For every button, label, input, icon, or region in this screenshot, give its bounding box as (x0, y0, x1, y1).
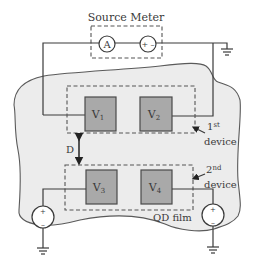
pad-v2: V2 (140, 97, 172, 131)
pad-v2-subscript: 2 (156, 114, 160, 122)
pad-v1: V1 (85, 97, 116, 131)
svg-text:–: – (211, 218, 215, 227)
first-device-word: device (204, 136, 237, 147)
svg-text:+: + (210, 206, 216, 214)
qd-film-device-diagram: Source Meter A + – V1 V2 1st device (0, 0, 255, 267)
pad-v1-subscript: 1 (100, 114, 104, 122)
pad-v4: V4 (141, 170, 172, 204)
ammeter-icon: A (99, 36, 115, 52)
pad-v3: V3 (86, 170, 117, 204)
separation-label: D (66, 144, 74, 155)
ammeter-label: A (102, 39, 111, 50)
pad-v3-subscript: 3 (101, 187, 105, 195)
voltage-source-icon: + – (140, 36, 156, 52)
right-gate-source-icon: + – (202, 204, 224, 227)
voltage-source-label: + – (141, 40, 154, 49)
svg-text:+: + (40, 208, 46, 216)
ground-icon (207, 247, 219, 253)
left-gate-source-icon: + – (32, 206, 54, 229)
second-device-word: device (204, 179, 237, 190)
source-meter-title: Source Meter (88, 11, 165, 24)
qd-film-label: QD film (153, 212, 192, 223)
svg-text:–: – (41, 220, 45, 229)
ground-icon (37, 248, 49, 254)
pad-v4-subscript: 4 (157, 187, 162, 195)
ground-icon (221, 49, 233, 55)
